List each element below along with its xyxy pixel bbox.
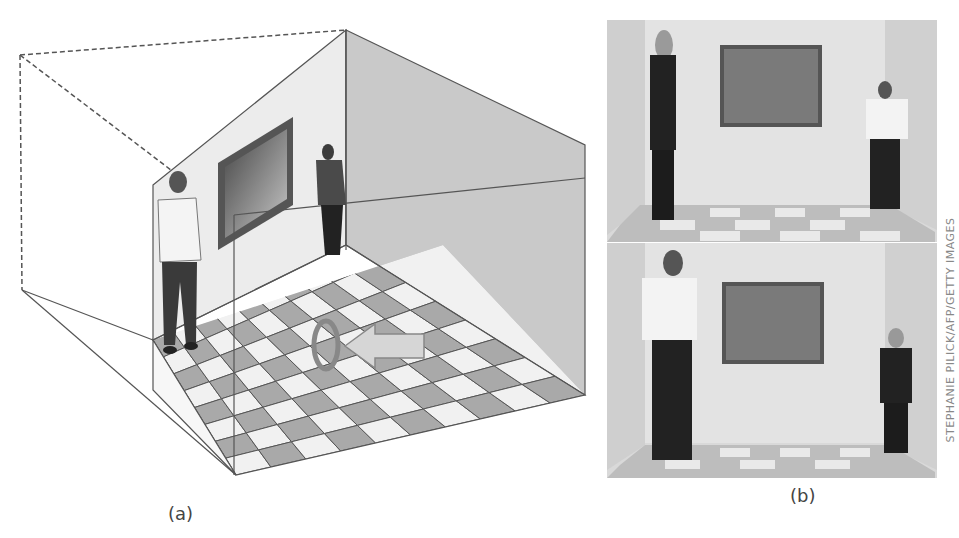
photo-top	[607, 20, 937, 242]
caption-b: (b)	[790, 485, 815, 506]
caption-a: (a)	[168, 503, 193, 524]
photo-bottom	[607, 243, 937, 478]
photo-credit: STEPHANIE PILICK/AFP/GETTY IMAGES	[944, 217, 957, 442]
ames-room-diagram: (a)	[0, 0, 600, 538]
ames-room-photos: (b)	[600, 0, 959, 538]
